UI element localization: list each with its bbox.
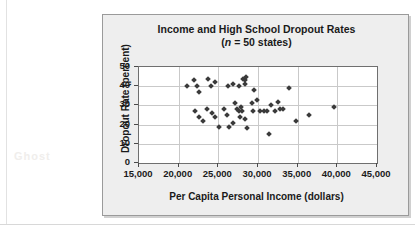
data-point — [196, 89, 202, 95]
y-axis-tick — [134, 124, 138, 125]
data-point — [250, 108, 256, 114]
data-point — [191, 78, 197, 84]
data-point — [331, 104, 337, 110]
data-point — [192, 108, 198, 114]
data-point — [239, 108, 245, 114]
data-point — [205, 76, 211, 82]
data-point — [243, 74, 249, 80]
data-point — [275, 99, 281, 105]
x-axis-tick — [336, 163, 337, 167]
data-point — [306, 112, 312, 118]
chart-subtitle-suffix: = 50 states) — [231, 36, 291, 48]
chart-figure: Income and High School Dropout Rates (n … — [102, 14, 409, 216]
page-edge-bottom — [0, 224, 415, 225]
data-point — [244, 126, 250, 132]
x-axis-tick — [257, 163, 258, 167]
data-point — [242, 116, 248, 122]
x-axis-tick — [297, 163, 298, 167]
scatter-plot-area — [138, 66, 378, 164]
chart-title: Income and High School Dropout Rates — [103, 23, 410, 36]
data-point — [254, 97, 260, 103]
data-point — [200, 118, 206, 124]
data-point — [184, 83, 190, 89]
y-axis-tick — [134, 143, 138, 144]
y-axis-title: Dropout Rate (percent) — [120, 29, 131, 169]
data-point — [208, 83, 214, 89]
x-axis-tick — [178, 163, 179, 167]
page-canvas: Ghost Income and High School Dropout Rat… — [0, 0, 415, 234]
x-axis-tick-label: 45,000 — [353, 169, 399, 179]
data-point — [224, 112, 230, 118]
data-point — [221, 106, 227, 112]
x-axis-tick — [138, 163, 139, 167]
x-axis-tick — [376, 163, 377, 167]
ghost-bleed-text: Ghost — [14, 150, 51, 162]
x-axis-tick — [217, 163, 218, 167]
data-point — [264, 108, 270, 114]
gridline-vertical — [218, 67, 219, 163]
data-point — [212, 114, 218, 120]
data-point — [251, 87, 257, 93]
gridline-vertical — [298, 67, 299, 163]
gridline-vertical — [179, 67, 180, 163]
gridline-vertical — [337, 67, 338, 163]
page-edge-left — [6, 0, 7, 224]
data-point — [236, 83, 242, 89]
data-point — [266, 131, 272, 137]
data-point — [286, 85, 292, 91]
y-axis-tick — [134, 66, 138, 67]
x-axis-title: Per Capita Personal Income (dollars) — [103, 191, 410, 202]
chart-subtitle: (n = 50 states) — [103, 36, 410, 49]
y-axis-tick — [134, 85, 138, 86]
gridline-vertical — [258, 67, 259, 163]
y-axis-tick — [134, 104, 138, 105]
data-point — [212, 80, 218, 86]
